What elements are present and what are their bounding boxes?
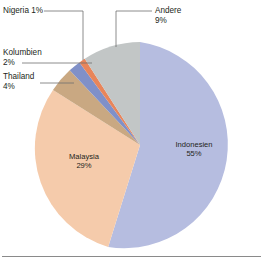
leader-line-andere <box>116 11 152 47</box>
pie-label-andere-name: Andere <box>155 6 181 15</box>
pie-label-andere-value: 9% <box>155 16 181 26</box>
pie-label-indonesien-name: Indonesien <box>175 140 212 149</box>
pie-label-nigeria-value: 1% <box>29 6 43 15</box>
pie-label-kolumbien-name: Kolumbien <box>3 48 42 57</box>
pie-label-indonesien-value: 55% <box>160 149 228 158</box>
pie-label-andere: Andere9% <box>155 6 181 25</box>
pie-label-thailand-value: 4% <box>3 82 34 92</box>
pie-label-malaysia-value: 29% <box>50 161 118 170</box>
pie-label-nigeria-name: Nigeria <box>3 6 29 15</box>
pie-chart-figure: Nigeria 1% Andere9% Kolumbien2% Thailand… <box>0 0 263 265</box>
pie-label-thailand-name: Thailand <box>3 72 34 81</box>
pie-chart-graphic <box>0 0 263 265</box>
pie-label-kolumbien: Kolumbien2% <box>3 48 42 67</box>
bottom-divider <box>2 256 261 257</box>
pie-label-kolumbien-value: 2% <box>3 58 42 68</box>
leader-line-nigeria <box>44 11 83 60</box>
pie-label-malaysia: Malaysia29% <box>50 152 118 170</box>
pie-label-nigeria: Nigeria 1% <box>3 6 43 16</box>
pie-label-indonesien: Indonesien55% <box>160 140 228 158</box>
pie-label-thailand: Thailand4% <box>3 72 34 91</box>
pie-label-malaysia-name: Malaysia <box>69 152 99 161</box>
